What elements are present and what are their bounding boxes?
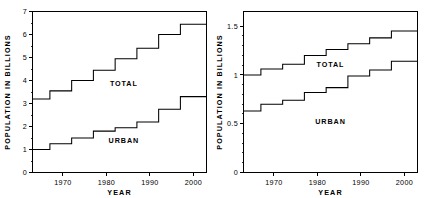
- y-tick-label: 2: [23, 122, 27, 131]
- chart-svg-developed-population: 00.511.51970198019902000TOTALURBANYEARPO…: [212, 0, 424, 198]
- x-tick-label: 2000: [185, 178, 202, 187]
- y-tick-label: 1: [23, 145, 27, 154]
- x-tick-label: 1980: [309, 178, 326, 187]
- x-tick-label: 1980: [98, 178, 115, 187]
- chart-panel-developed-population: 00.511.51970198019902000TOTALURBANYEARPO…: [212, 0, 424, 198]
- x-axis: 1970198019902000: [248, 173, 413, 187]
- y-axis-title: POPULATION IN BILLIONS: [3, 34, 12, 150]
- x-tick-label: 1990: [352, 178, 369, 187]
- y-tick-label: 1: [234, 71, 238, 80]
- x-tick-label: 2000: [396, 178, 413, 187]
- x-axis-title: YEAR: [318, 188, 342, 197]
- x-tick-label: 1970: [54, 178, 71, 187]
- x-axis-title: YEAR: [107, 188, 131, 197]
- y-axis: 01234567: [23, 7, 33, 177]
- chart-svg-world-population: 012345671970198019902000TOTALURBANYEARPO…: [0, 0, 212, 198]
- x-tick-label: 1990: [141, 178, 158, 187]
- series-label-urban: URBAN: [315, 117, 345, 126]
- y-axis-title: POPULATION IN BILLIONS: [215, 34, 224, 150]
- y-tick-label: 0.5: [227, 119, 238, 128]
- series-label-total: TOTAL: [110, 79, 138, 88]
- y-tick-label: 1.5: [227, 22, 238, 31]
- y-tick-label: 4: [23, 76, 27, 85]
- y-tick-label: 0: [234, 168, 238, 177]
- x-axis: 1970198019902000: [37, 173, 202, 187]
- y-tick-label: 3: [23, 99, 27, 108]
- y-tick-label: 0: [23, 168, 27, 177]
- y-tick-label: 6: [23, 30, 27, 39]
- series-label-urban: URBAN: [109, 136, 139, 145]
- y-axis: 00.511.5: [227, 22, 244, 177]
- plot-frame: [33, 12, 207, 173]
- plot-area: 00.511.51970198019902000TOTALURBANYEARPO…: [215, 12, 418, 198]
- chart-panel-world-population: 012345671970198019902000TOTALURBANYEARPO…: [0, 0, 212, 198]
- series-label-total: TOTAL: [317, 60, 345, 69]
- y-tick-label: 7: [23, 7, 27, 16]
- y-tick-label: 5: [23, 53, 27, 62]
- plot-area: 012345671970198019902000TOTALURBANYEARPO…: [3, 7, 207, 197]
- two-panel-population-figure: 012345671970198019902000TOTALURBANYEARPO…: [0, 0, 424, 198]
- x-tick-label: 1970: [265, 178, 282, 187]
